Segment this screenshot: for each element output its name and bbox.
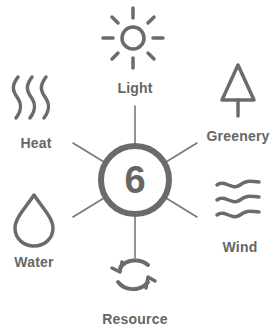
label-wind: Wind [223, 239, 258, 255]
heat-waves-icon [13, 77, 48, 118]
label-greenery: Greenery [206, 128, 269, 144]
label-heat: Heat [20, 135, 51, 151]
center-number: 6 [124, 161, 145, 199]
label-resource: Resource [102, 311, 167, 327]
label-water: Water [14, 254, 53, 270]
six-elements-diagram: 6 Light Greenery Wind Resource Water Hea… [0, 0, 277, 330]
water-drop-icon [15, 195, 53, 246]
tree-icon [222, 65, 254, 116]
recycle-icon [112, 260, 155, 289]
sun-icon [103, 8, 163, 68]
label-light: Light [117, 80, 152, 96]
wind-icon [217, 181, 259, 216]
